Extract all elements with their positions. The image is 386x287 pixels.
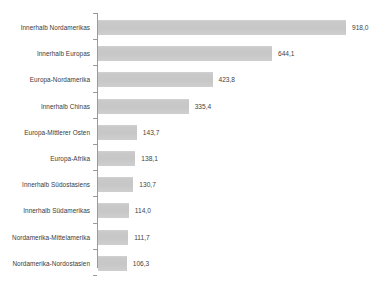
plot-area: Innerhalb Nordamerikas918,0Innerhalb Eur…	[0, 0, 386, 287]
bar-row: Europa-Mittlerer Osten143,7	[0, 125, 386, 140]
bar-row: Nordamerika-Mittelamerika111,7	[0, 230, 386, 245]
bar-chart: Innerhalb Nordamerikas918,0Innerhalb Eur…	[0, 0, 386, 287]
bar-value-label: 138,1	[141, 151, 158, 166]
axis-tick	[93, 249, 97, 250]
bar-row: Europa-Nordamerika423,8	[0, 72, 386, 87]
bar	[98, 151, 135, 166]
category-label: Nordamerika-Mittelamerika	[0, 230, 90, 245]
bar	[98, 125, 137, 140]
category-label: Europa-Nordamerika	[0, 72, 90, 87]
axis-tick	[93, 170, 97, 171]
bar-value-label: 423,8	[219, 72, 236, 87]
bar	[98, 20, 346, 35]
bar-row: Nordamerika-Nordostasien106,3	[0, 256, 386, 271]
bar-value-label: 106,3	[133, 256, 150, 271]
bar	[98, 72, 213, 87]
bar	[98, 99, 189, 114]
bar-value-label: 335,4	[195, 99, 212, 114]
bar-row: Innerhalb Chinas335,4	[0, 99, 386, 114]
axis-tick	[93, 196, 97, 197]
category-label: Innerhalb Europas	[0, 46, 90, 61]
axis-tick	[93, 144, 97, 145]
category-label: Innerhalb Nordamerikas	[0, 20, 90, 35]
category-label: Europa-Mittlerer Osten	[0, 125, 90, 140]
bar-value-label: 143,7	[143, 125, 160, 140]
category-label: Innerhalb Südamerikas	[0, 203, 90, 218]
bar-value-label: 114,0	[135, 203, 151, 218]
bar-value-label: 130,7	[139, 177, 156, 192]
bar-value-label: 918,0	[352, 20, 369, 35]
category-label: Nordamerika-Nordostasien	[0, 256, 90, 271]
bar-row: Innerhalb Südamerikas114,0	[0, 203, 386, 218]
bar-value-label: 644,1	[278, 46, 295, 61]
bar-row: Innerhalb Nordamerikas918,0	[0, 20, 386, 35]
bar	[98, 256, 127, 271]
bar	[98, 230, 128, 245]
category-label: Innerhalb Südostasiens	[0, 177, 90, 192]
axis-tick	[93, 13, 97, 14]
bar	[98, 46, 272, 61]
bar-value-label: 111,7	[134, 230, 150, 245]
bar	[98, 203, 129, 218]
axis-tick	[93, 118, 97, 119]
axis-tick	[93, 223, 97, 224]
category-label: Innerhalb Chinas	[0, 99, 90, 114]
bar-row: Innerhalb Europas644,1	[0, 46, 386, 61]
axis-tick	[93, 275, 97, 276]
category-label: Europa-Afrika	[0, 151, 90, 166]
bar-row: Europa-Afrika138,1	[0, 151, 386, 166]
axis-tick	[93, 92, 97, 93]
bar-row: Innerhalb Südostasiens130,7	[0, 177, 386, 192]
axis-tick	[93, 39, 97, 40]
bar	[98, 177, 133, 192]
axis-tick	[93, 65, 97, 66]
